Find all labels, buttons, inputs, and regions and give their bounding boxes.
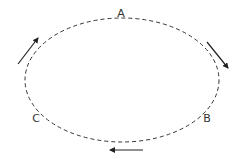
arrow-c-to-a-icon (18, 38, 38, 64)
node-label-a: A (117, 7, 125, 20)
cycle-diagram: A B C (0, 0, 240, 159)
arrow-a-to-b-icon (207, 42, 228, 68)
node-label-c: C (32, 112, 40, 125)
node-label-b: B (203, 112, 211, 125)
dashed-cycle-ellipse (25, 18, 219, 142)
